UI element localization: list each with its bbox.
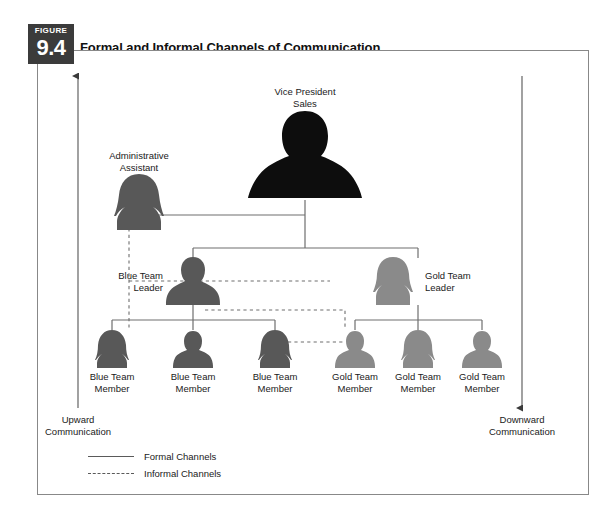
person-silhouette-icon [367, 256, 419, 306]
legend-row-formal: Formal Channels [88, 448, 221, 465]
person-silhouette-icon [333, 330, 377, 369]
node-gold-team-leader[interactable]: Gold Team Leader [367, 256, 419, 306]
node-administrative-assistant[interactable]: Administrative Assistant [74, 148, 204, 231]
node-blue-member-2[interactable]: Blue Team Member [155, 330, 231, 394]
person-silhouette-icon [106, 173, 172, 231]
person-silhouette-icon [171, 330, 215, 369]
upward-communication-label: Upward Communication [23, 414, 133, 438]
node-blue-member-2-label: Blue Team Member [155, 371, 231, 394]
legend-label-formal: Formal Channels [144, 451, 216, 462]
person-silhouette-icon [165, 256, 221, 306]
person-silhouette-icon [460, 330, 504, 369]
node-blue-member-3-label: Blue Team Member [237, 371, 313, 394]
person-silhouette-icon [246, 109, 364, 199]
informal-channel-line-icon [88, 473, 134, 474]
node-vice-president-label: Vice President Sales [230, 86, 380, 109]
node-blue-member-1[interactable]: Blue Team Member [74, 329, 150, 394]
node-gold-member-3-label: Gold Team Member [444, 371, 520, 394]
node-vice-president[interactable]: Vice President Sales [230, 84, 380, 199]
person-silhouette-icon [252, 329, 298, 369]
node-blue-team-leader[interactable]: Blue Team Leader [165, 256, 221, 306]
node-blue-member-3[interactable]: Blue Team Member [237, 329, 313, 394]
formal-channel-line-icon [88, 456, 134, 457]
person-silhouette-icon [89, 329, 135, 369]
node-blue-member-1-label: Blue Team Member [74, 371, 150, 394]
legend: Formal Channels Informal Channels [88, 448, 221, 482]
node-gold-team-leader-label: Gold Team Leader [425, 270, 495, 293]
node-gold-member-3[interactable]: Gold Team Member [444, 330, 520, 394]
person-silhouette-icon [395, 329, 441, 369]
legend-label-informal: Informal Channels [144, 468, 221, 479]
node-administrative-assistant-label: Administrative Assistant [74, 150, 204, 173]
downward-communication-label: Downward Communication [467, 414, 577, 438]
figure-badge-number: 9.4 [28, 36, 74, 60]
legend-row-informal: Informal Channels [88, 465, 221, 482]
node-blue-team-leader-label: Blue Team Leader [93, 270, 163, 293]
figure-badge: FIGURE 9.4 [28, 24, 74, 64]
